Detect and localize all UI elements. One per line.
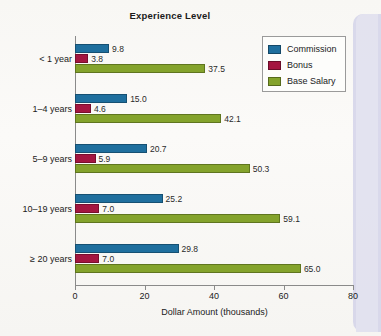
- legend-item[interactable]: Bonus: [268, 57, 345, 73]
- bar-commission: [75, 94, 127, 103]
- category-label: 10–19 years: [4, 204, 72, 214]
- bar-value-label: 20.7: [150, 144, 167, 154]
- x-tick-mark: [353, 286, 354, 290]
- bar-value-label: 4.6: [94, 104, 106, 114]
- bar-bonus: [75, 154, 96, 163]
- legend-swatch-blue: [268, 45, 281, 54]
- legend-item[interactable]: Commission: [268, 41, 345, 57]
- x-tick-label: 20: [139, 291, 149, 301]
- legend-swatch-red: [268, 61, 281, 70]
- bar-commission: [75, 194, 163, 203]
- x-tick-label: 40: [209, 291, 219, 301]
- legend-swatch-green: [268, 77, 281, 86]
- x-tick-mark: [75, 286, 76, 290]
- bar-value-label: 7.0: [102, 254, 114, 264]
- bar-base-salary: [75, 164, 250, 173]
- bar-commission: [75, 44, 109, 53]
- x-tick-label: 60: [278, 291, 288, 301]
- bar-value-label: 59.1: [283, 214, 300, 224]
- bar-value-label: 5.9: [99, 154, 111, 164]
- bar-value-label: 50.3: [253, 164, 270, 174]
- bar-value-label: 15.0: [130, 94, 147, 104]
- x-tick-mark: [145, 286, 146, 290]
- scan-edge-highlight: [356, 14, 378, 332]
- bar-commission: [75, 144, 147, 153]
- legend-item-label: Bonus: [287, 60, 313, 70]
- bar-value-label: 7.0: [102, 204, 114, 214]
- bar-value-label: 65.0: [304, 264, 321, 274]
- bar-value-label: 42.1: [224, 114, 241, 124]
- legend-item-label: Base Salary: [287, 76, 336, 86]
- bar-bonus: [75, 104, 91, 113]
- x-axis-title: Dollar Amount (thousands): [75, 307, 354, 317]
- bar-base-salary: [75, 264, 301, 273]
- bar-value-label: 3.8: [91, 54, 103, 64]
- bar-value-label: 37.5: [208, 64, 225, 74]
- chart-page: Experience Level < 1 year1–4 years5–9 ye…: [0, 0, 381, 336]
- category-label: ≥ 20 years: [4, 254, 72, 264]
- x-tick-label: 0: [72, 291, 77, 301]
- bar-bonus: [75, 54, 88, 63]
- bar-value-label: 29.8: [182, 244, 199, 254]
- bar-base-salary: [75, 114, 221, 123]
- bar-value-label: 9.8: [112, 44, 124, 54]
- scan-edge-artifact: [353, 14, 381, 332]
- category-label: < 1 year: [4, 54, 72, 64]
- bar-value-label: 25.2: [166, 194, 183, 204]
- bar-base-salary: [75, 214, 280, 223]
- x-tick-mark: [284, 286, 285, 290]
- bar-commission: [75, 244, 179, 253]
- category-axis-labels: < 1 year1–4 years5–9 years10–19 years≥ 2…: [0, 0, 72, 336]
- bar-base-salary: [75, 64, 205, 73]
- category-label: 5–9 years: [4, 154, 72, 164]
- category-label: 1–4 years: [4, 104, 72, 114]
- chart-legend: CommissionBonusBase Salary: [262, 36, 346, 92]
- legend-item[interactable]: Base Salary: [268, 73, 345, 89]
- x-tick-mark: [214, 286, 215, 290]
- x-tick-label: 80: [348, 291, 358, 301]
- bar-bonus: [75, 254, 99, 263]
- legend-item-label: Commission: [287, 44, 337, 54]
- bar-bonus: [75, 204, 99, 213]
